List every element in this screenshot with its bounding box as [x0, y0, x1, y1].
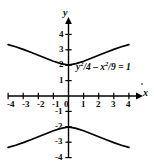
x-tick-label: -4	[7, 100, 15, 109]
x-tick-label-origin: 0	[64, 100, 69, 109]
x-tick-label: -3	[22, 100, 30, 109]
y-tick-label: -3	[55, 137, 63, 146]
plot-canvas	[0, 0, 154, 163]
y-axis-label: y	[63, 8, 67, 18]
equation-y-denominator: /4	[83, 62, 90, 72]
x-tick-label: -2	[37, 100, 45, 109]
y-tick-label: 1	[59, 76, 64, 85]
x-axis-label: x	[143, 88, 148, 98]
y-axis-arrowhead	[65, 17, 72, 24]
equation-operator: –	[91, 62, 101, 72]
scan-speck	[141, 83, 143, 85]
x-tick-label: 4	[126, 100, 131, 109]
equation-x-denominator: /9	[108, 62, 115, 72]
y-tick-label: -1	[55, 107, 63, 116]
y-tick-label: 2	[59, 60, 64, 69]
y-tick-label: 4	[59, 30, 64, 39]
y-tick-label: -4	[55, 153, 63, 162]
x-tick-label: 1	[81, 100, 86, 109]
y-tick-label: -2	[55, 122, 63, 131]
equation-annotation: y2/4 – x2/9 = 1	[76, 62, 131, 72]
x-tick-label: 2	[96, 100, 101, 109]
y-tick-label: 3	[59, 45, 64, 54]
equation-equals-one: = 1	[116, 62, 131, 72]
hyperbola-graph-figure: -4 -3 -2 -1 0 1 2 3 4 4 3 2 1 -1 -2 -3 -…	[0, 0, 154, 163]
x-axis-arrowhead	[136, 93, 143, 100]
x-tick-label: 3	[111, 100, 116, 109]
